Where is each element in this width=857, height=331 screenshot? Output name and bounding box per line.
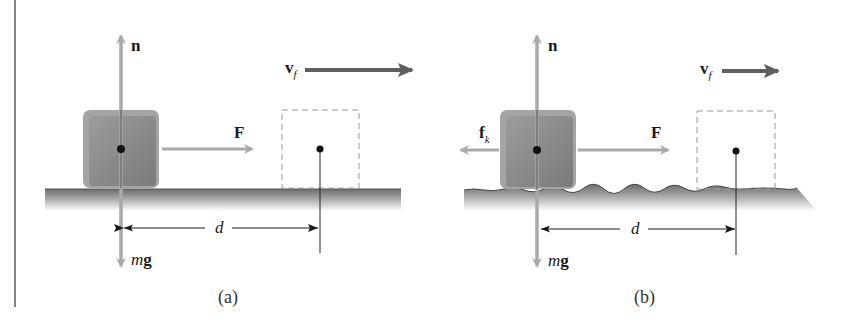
normal-force-label: n — [548, 37, 557, 54]
displacement-label: d — [631, 220, 640, 237]
velocity-label: vf — [285, 59, 297, 76]
panel-b-caption: (b) — [634, 288, 655, 306]
diagram-canvas — [0, 0, 857, 331]
weight-label: mg — [548, 252, 569, 269]
weight-label: mg — [131, 251, 152, 268]
ground-smooth — [45, 189, 401, 211]
panel-a — [45, 36, 412, 266]
friction-force-label: fk — [479, 124, 490, 141]
block-center-dot — [117, 145, 125, 153]
applied-force-label: F — [651, 124, 661, 141]
panel-a-caption: (a) — [218, 288, 238, 306]
displacement-label: d — [215, 219, 224, 236]
velocity-label: vf — [700, 60, 712, 77]
block-center-dot — [533, 146, 541, 154]
applied-force-label: F — [234, 124, 244, 141]
normal-force-label: n — [131, 37, 140, 54]
